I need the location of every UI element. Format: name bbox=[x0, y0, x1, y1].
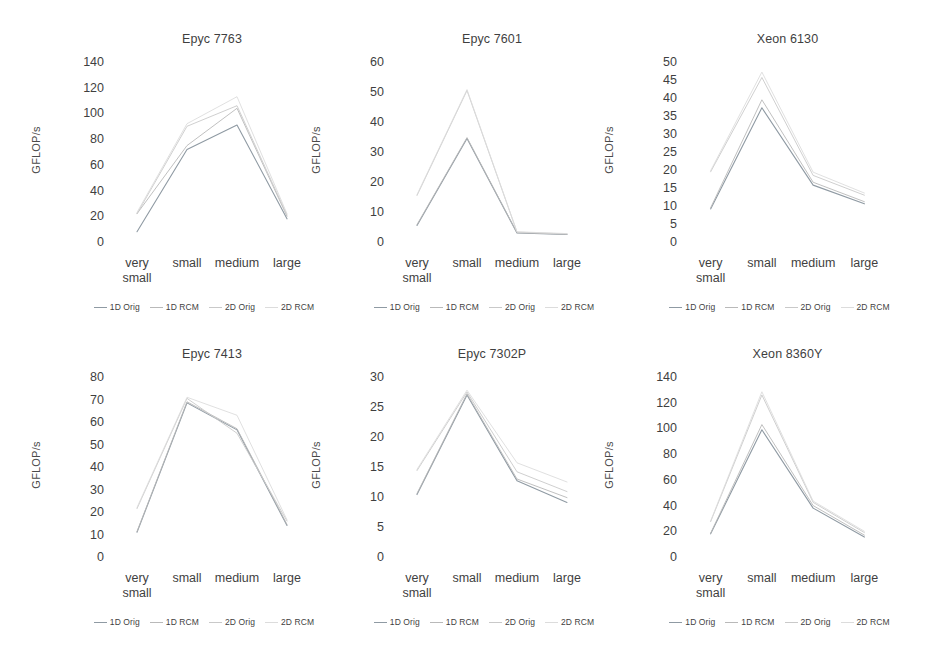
legend-item[interactable]: 1D Orig bbox=[669, 617, 715, 627]
x-tick-label: very small bbox=[392, 256, 442, 286]
x-tick-label: small bbox=[442, 256, 492, 286]
y-axis-ticks: 140120100806040200 bbox=[58, 62, 104, 242]
legend-line-icon bbox=[94, 307, 107, 308]
legend-item[interactable]: 1D RCM bbox=[430, 617, 479, 627]
series-line-2d-orig bbox=[711, 77, 865, 195]
x-tick-label: medium bbox=[788, 256, 839, 286]
legend-line-icon bbox=[489, 307, 502, 308]
chart-legend: 1D Orig1D RCM2D Orig2D RCM bbox=[56, 617, 352, 627]
x-tick-label: medium bbox=[492, 256, 542, 286]
legend-line-icon bbox=[545, 307, 558, 308]
legend-item[interactable]: 2D Orig bbox=[209, 617, 255, 627]
y-tick-label: 45 bbox=[663, 74, 677, 87]
legend-item[interactable]: 1D Orig bbox=[94, 617, 140, 627]
legend-item[interactable]: 2D Orig bbox=[785, 302, 831, 312]
y-axis-label: GFLOP/s bbox=[603, 126, 615, 173]
legend-item[interactable]: 1D RCM bbox=[430, 302, 479, 312]
x-tick-label: medium bbox=[492, 571, 542, 601]
y-axis-ticks: 140120100806040200 bbox=[631, 377, 677, 557]
legend-item[interactable]: 2D Orig bbox=[489, 617, 535, 627]
chart-title: Epyc 7601 bbox=[332, 32, 652, 46]
legend-label: 2D RCM bbox=[561, 617, 594, 627]
legend-item[interactable]: 1D RCM bbox=[150, 302, 199, 312]
legend-item[interactable]: 1D RCM bbox=[725, 302, 774, 312]
y-tick-label: 15 bbox=[370, 461, 384, 474]
x-tick-label: very small bbox=[685, 256, 736, 286]
legend-item[interactable]: 2D RCM bbox=[841, 617, 890, 627]
y-tick-label: 80 bbox=[90, 371, 104, 384]
y-tick-label: 30 bbox=[370, 371, 384, 384]
legend-item[interactable]: 2D Orig bbox=[489, 302, 535, 312]
y-tick-label: 15 bbox=[663, 182, 677, 195]
y-tick-label: 30 bbox=[370, 146, 384, 159]
x-tick-label: large bbox=[542, 571, 592, 601]
legend-item[interactable]: 2D Orig bbox=[785, 617, 831, 627]
y-tick-label: 40 bbox=[663, 92, 677, 105]
y-tick-label: 10 bbox=[370, 491, 384, 504]
legend-item[interactable]: 2D RCM bbox=[265, 302, 314, 312]
y-tick-label: 60 bbox=[663, 474, 677, 487]
x-tick-label: small bbox=[162, 571, 212, 601]
legend-item[interactable]: 2D RCM bbox=[265, 617, 314, 627]
y-tick-label: 50 bbox=[370, 86, 384, 99]
legend-item[interactable]: 2D RCM bbox=[841, 302, 890, 312]
legend-line-icon bbox=[841, 307, 854, 308]
legend-label: 1D Orig bbox=[685, 617, 715, 627]
legend-line-icon bbox=[209, 307, 222, 308]
y-tick-label: 70 bbox=[90, 394, 104, 407]
legend-item[interactable]: 1D Orig bbox=[374, 302, 420, 312]
legend-line-icon bbox=[265, 307, 278, 308]
chart-panel-xeon-6130: Xeon 6130GFLOP/s50454035302520151050very… bbox=[640, 32, 937, 332]
x-tick-label: medium bbox=[212, 571, 262, 601]
chart-title: Epyc 7763 bbox=[52, 32, 372, 46]
legend-label: 1D RCM bbox=[166, 617, 199, 627]
plot-area bbox=[392, 62, 592, 242]
legend-item[interactable]: 2D RCM bbox=[545, 617, 594, 627]
chart-title: Xeon 6130 bbox=[625, 32, 937, 46]
y-axis-label: GFLOP/s bbox=[603, 441, 615, 488]
x-tick-label: very small bbox=[112, 256, 162, 286]
y-axis-label: GFLOP/s bbox=[30, 441, 42, 488]
legend-item[interactable]: 2D Orig bbox=[209, 302, 255, 312]
legend-item[interactable]: 1D RCM bbox=[725, 617, 774, 627]
x-tick-label: large bbox=[839, 256, 890, 286]
y-tick-label: 5 bbox=[377, 521, 384, 534]
x-tick-label: medium bbox=[212, 256, 262, 286]
y-tick-label: 20 bbox=[663, 164, 677, 177]
chart-panel-epyc-7601: Epyc 7601GFLOP/s6050403020100very smalls… bbox=[350, 32, 640, 332]
series-line-1d-rcm bbox=[417, 138, 567, 235]
legend-label: 2D RCM bbox=[281, 302, 314, 312]
legend-label: 1D Orig bbox=[110, 302, 140, 312]
y-axis-ticks: 50454035302520151050 bbox=[631, 62, 677, 242]
legend-line-icon bbox=[209, 622, 222, 623]
y-tick-label: 30 bbox=[90, 484, 104, 497]
series-line-1d-orig bbox=[137, 125, 287, 232]
legend-label: 1D Orig bbox=[390, 617, 420, 627]
x-tick-label: very small bbox=[685, 571, 736, 601]
chart-title: Epyc 7302P bbox=[332, 347, 652, 361]
y-tick-label: 25 bbox=[370, 401, 384, 414]
series-line-1d-rcm bbox=[137, 402, 287, 532]
y-axis-ticks: 6050403020100 bbox=[338, 62, 384, 242]
y-tick-label: 40 bbox=[90, 185, 104, 198]
legend-line-icon bbox=[785, 307, 798, 308]
legend-item[interactable]: 1D RCM bbox=[150, 617, 199, 627]
plot-area bbox=[112, 377, 312, 557]
series-line-1d-rcm bbox=[711, 100, 865, 208]
chart-legend: 1D Orig1D RCM2D Orig2D RCM bbox=[629, 302, 930, 312]
legend-item[interactable]: 1D Orig bbox=[94, 302, 140, 312]
legend-item[interactable]: 2D RCM bbox=[545, 302, 594, 312]
legend-line-icon bbox=[265, 622, 278, 623]
y-tick-label: 25 bbox=[663, 146, 677, 159]
legend-line-icon bbox=[725, 307, 738, 308]
plot-area bbox=[112, 62, 312, 242]
y-tick-label: 60 bbox=[90, 159, 104, 172]
x-axis-labels: very smallsmallmediumlarge bbox=[392, 571, 592, 601]
chart-legend: 1D Orig1D RCM2D Orig2D RCM bbox=[629, 617, 930, 627]
legend-item[interactable]: 1D Orig bbox=[374, 617, 420, 627]
series-line-1d-orig bbox=[417, 139, 567, 235]
series-line-2d-orig bbox=[417, 91, 567, 234]
y-tick-label: 50 bbox=[90, 439, 104, 452]
y-tick-label: 80 bbox=[90, 133, 104, 146]
legend-item[interactable]: 1D Orig bbox=[669, 302, 715, 312]
